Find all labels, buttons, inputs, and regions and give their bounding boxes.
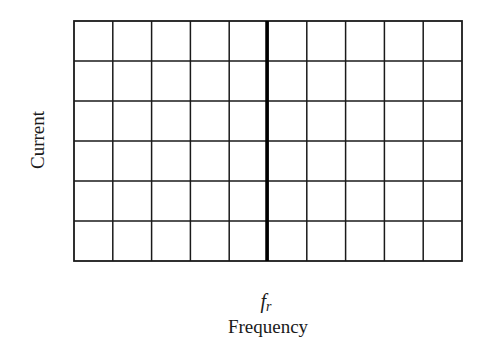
fr-subscript: r (266, 299, 271, 314)
resonant-frequency-label: fr (260, 290, 271, 315)
chart-canvas (0, 0, 482, 360)
y-axis-label: Current (27, 111, 49, 169)
x-axis-label: Frequency (228, 316, 308, 338)
